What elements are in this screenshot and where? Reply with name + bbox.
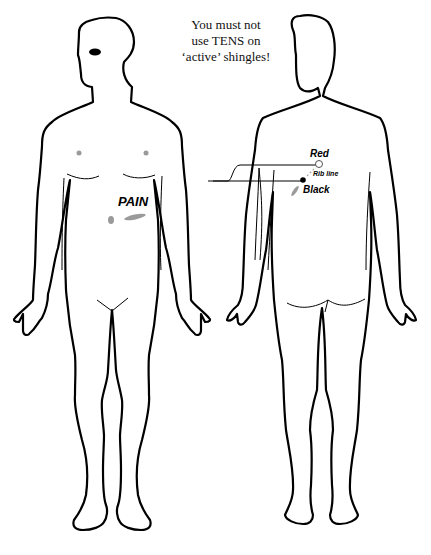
back-pain-marker [290,185,300,197]
black-electrode [300,177,306,183]
red-electrode [316,161,323,168]
warning-line-3: ‘active’ shingles! [168,49,284,65]
pain-label: PAIN [118,194,148,209]
back-body-outline [227,15,416,524]
nipple-left [77,151,82,156]
warning-line-1: You must not [168,17,284,33]
rib-line-label: Rib line [313,170,338,177]
navel-mark [108,216,114,224]
red-label: Red [310,148,329,159]
body-outlines [0,0,431,555]
nipple-right [144,151,149,156]
head-mark [89,49,101,56]
tens-placement-diagram: You must not use TENS on ‘active’ shingl… [0,0,431,555]
front-body-outline [14,18,210,530]
warning-line-2: use TENS on [168,33,284,49]
pain-area-marker [124,212,147,221]
shingles-warning: You must not use TENS on ‘active’ shingl… [168,17,284,65]
black-label: Black [303,184,330,195]
